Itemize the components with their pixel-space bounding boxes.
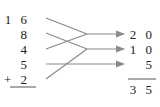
connector-lines xyxy=(0,0,160,107)
line-16 xyxy=(46,18,87,34)
